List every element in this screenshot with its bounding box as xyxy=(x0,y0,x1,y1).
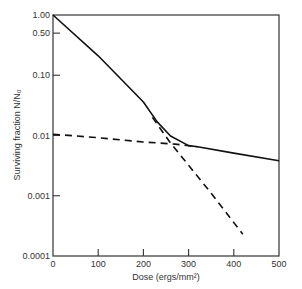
survival-chart: 1.000.500.100.010.0010.0001 010020030040… xyxy=(0,0,302,289)
series-line xyxy=(53,15,279,161)
x-axis: 0100200300400500 xyxy=(50,249,286,269)
y-axis-title: Surviving fraction N/N₀ xyxy=(12,89,22,180)
x-axis-title: Dose (ergs/mm²) xyxy=(132,272,200,282)
x-tick-label: 500 xyxy=(271,259,286,269)
y-tick-label: 0.01 xyxy=(32,131,50,141)
y-tick-label: 1.00 xyxy=(32,10,50,20)
x-tick-label: 400 xyxy=(226,259,241,269)
series-line xyxy=(53,134,198,147)
series-line xyxy=(152,117,242,234)
plot-frame xyxy=(53,15,279,256)
y-tick-label: 0.50 xyxy=(32,28,50,38)
y-axis: 1.000.500.100.010.0010.0001 xyxy=(22,10,60,261)
x-tick-label: 200 xyxy=(136,259,151,269)
y-tick-label: 0.10 xyxy=(32,70,50,80)
y-tick-label: 0.0001 xyxy=(22,251,50,261)
x-tick-label: 100 xyxy=(91,259,106,269)
x-tick-label: 300 xyxy=(181,259,196,269)
series-layer xyxy=(53,15,279,234)
x-tick-label: 0 xyxy=(50,259,55,269)
y-tick-label: 0.001 xyxy=(27,191,50,201)
